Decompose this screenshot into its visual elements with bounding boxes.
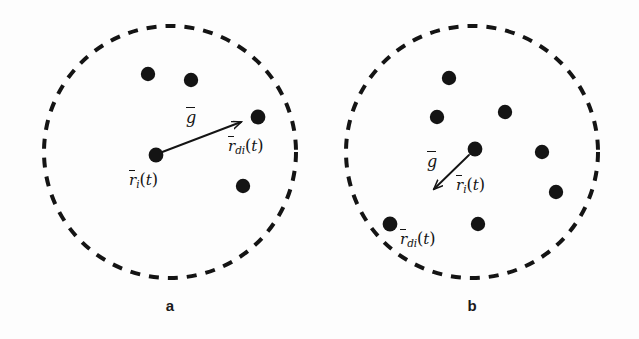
panel-a-self-symbol: r: [129, 171, 136, 189]
panel-a-target-dot: [251, 110, 266, 125]
diagram-svg: [0, 0, 639, 339]
figure-canvas: g rdi(t) ri(t) a g ri(t) rdi(t) b: [0, 0, 639, 339]
panel-b-target-symbol: r: [400, 230, 407, 248]
panel-a-self-label: ri(t): [129, 170, 158, 190]
panel-a-gradient-symbol: g: [186, 108, 196, 127]
panel-b-agent-dot: [498, 105, 512, 119]
panel-a-self-dot: [149, 148, 164, 163]
panel-a-agent-dot: [141, 67, 155, 81]
panel-a-gradient-label: g: [186, 108, 196, 127]
panel-b-agent-dot: [549, 185, 563, 199]
panel-a-target-label: rdi(t): [228, 136, 264, 156]
panel-b-group: [346, 26, 598, 278]
panel-b-self-symbol: r: [456, 176, 463, 194]
panel-a-agent-dot: [184, 73, 198, 87]
panel-a-target-symbol: r: [228, 137, 235, 155]
panel-b-self-label: ri(t): [456, 175, 485, 195]
panel-b-agent-dot: [442, 71, 456, 85]
panel-a-target-subscript: di: [235, 144, 245, 156]
panel-b-agent-dot: [535, 145, 549, 159]
panel-b-target-subscript: di: [407, 237, 417, 249]
panel-b-agent-dot: [471, 217, 485, 231]
panel-a-caption: a: [150, 297, 190, 314]
panel-b-gradient-label: g: [427, 152, 437, 171]
panel-b-agent-dot: [430, 110, 444, 124]
panel-b-target-dot: [383, 217, 398, 232]
panel-b-gradient-symbol: g: [427, 152, 437, 171]
panel-b-target-label: rdi(t): [400, 229, 436, 249]
panel-b-caption: b: [452, 297, 492, 314]
panel-b-self-dot: [468, 142, 483, 157]
panel-a-agent-dot: [236, 179, 250, 193]
